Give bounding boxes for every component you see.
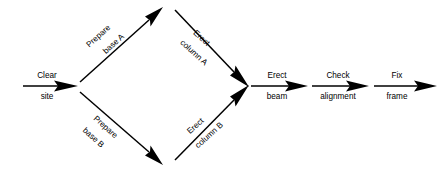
erect-beam-label-top: Erect (267, 71, 287, 80)
clear-site-label-bottom: site (41, 92, 54, 101)
fix-frame-label-top: Fix (392, 71, 403, 80)
prepare-base-a-line (80, 20, 149, 82)
edge-prepare-base-b: Prepare base B (80, 92, 163, 165)
edge-fix-frame: Fix frame (374, 71, 437, 101)
edge-clear-site: Clear site (23, 71, 78, 101)
prepare-base-b-arrowhead (145, 146, 163, 166)
prepare-base-b-line (80, 92, 149, 152)
erect-column-b-line (175, 100, 234, 160)
edge-erect-beam: Erect beam (251, 71, 308, 101)
edge-prepare-base-a: Prepare base A (80, 7, 163, 82)
erect-beam-label-bottom: beam (267, 92, 288, 101)
network-diagram-canvas: Clear site Prepare base A Prepare base B (0, 0, 444, 172)
erect-column-b-arrowhead (230, 85, 249, 107)
check-alignment-label-bottom: alignment (320, 92, 356, 101)
edge-erect-column-a: Erect column A (175, 10, 249, 87)
erect-column-a-arrowhead (230, 66, 249, 88)
check-alignment-label-top: Check (326, 71, 350, 80)
clear-site-label-top: Clear (37, 71, 57, 80)
edge-check-alignment: Check alignment (312, 71, 369, 101)
prepare-base-a-arrowhead (145, 7, 163, 27)
fix-frame-label-bottom: frame (387, 92, 408, 101)
erect-column-b-label-top: Erect (185, 116, 206, 136)
activity-network-diagram: Clear site Prepare base A Prepare base B (0, 0, 444, 172)
edge-erect-column-b: Erect column B (175, 85, 249, 160)
